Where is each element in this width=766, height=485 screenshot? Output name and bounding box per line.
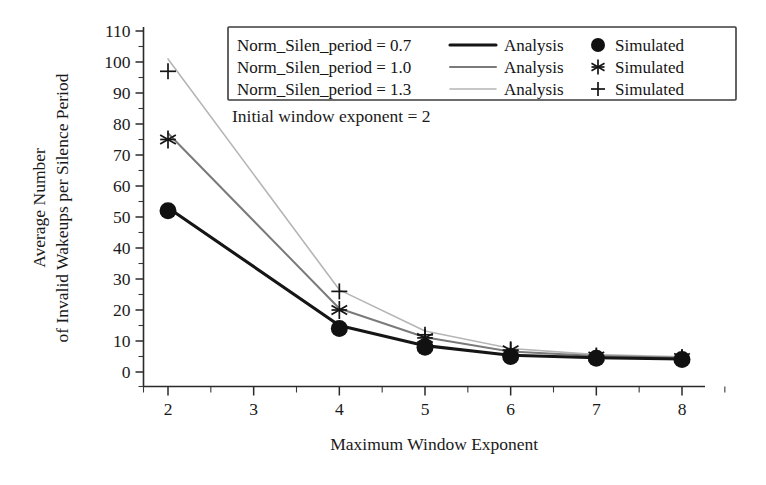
data-marker-asterisk: [160, 131, 176, 149]
x-axis-title: Maximum Window Exponent: [330, 434, 538, 454]
y-axis-ticks: [136, 31, 144, 387]
y-tick-label: 0: [122, 362, 131, 382]
chart-legend: Norm_Silen_period = 0.7AnalysisSimulated…: [228, 27, 736, 100]
line-chart-canvas: 0102030405060708090100110 2345678 Averag…: [0, 0, 766, 485]
y-axis-title-line2: of Invalid Wakeups per Silence Period: [52, 73, 72, 342]
chart-figure: 0102030405060708090100110 2345678 Averag…: [0, 0, 766, 485]
y-tick-label: 70: [113, 145, 131, 165]
series-line-3: [168, 59, 682, 357]
data-marker-circle: [331, 320, 348, 337]
data-marker-plus: [331, 283, 347, 299]
x-tick-label: 2: [164, 399, 173, 419]
x-axis-tick-labels: 2345678: [164, 399, 687, 419]
x-axis-ticks: [144, 387, 725, 396]
data-series-group: [168, 59, 682, 359]
legend-series-name: Norm_Silen_period = 0.7: [237, 36, 412, 55]
x-tick-label: 8: [678, 399, 687, 419]
y-tick-label: 110: [105, 21, 131, 41]
legend-series-name: Norm_Silen_period = 1.0: [237, 58, 411, 77]
data-marker-circle: [502, 348, 519, 365]
x-tick-label: 6: [506, 399, 515, 419]
y-tick-label: 50: [113, 207, 131, 227]
legend-marker-circle: [591, 38, 605, 52]
x-tick-label: 5: [421, 399, 430, 419]
data-marker-circle: [588, 350, 605, 367]
y-tick-label: 100: [104, 52, 131, 72]
legend-simulated-label: Simulated: [615, 36, 684, 55]
legend-simulated-label: Simulated: [615, 58, 684, 77]
x-tick-label: 3: [249, 399, 258, 419]
y-axis-tick-labels: 0102030405060708090100110: [104, 21, 131, 382]
legend-analysis-label: Analysis: [504, 36, 564, 55]
y-tick-label: 10: [113, 331, 131, 351]
y-tick-label: 20: [113, 300, 131, 320]
y-tick-label: 90: [113, 83, 131, 103]
y-tick-label: 30: [113, 269, 131, 289]
legend-series-name: Norm_Silen_period = 1.3: [237, 80, 411, 99]
initial-window-exponent-annotation: Initial window exponent = 2: [232, 106, 430, 126]
data-marker-circle: [674, 351, 691, 368]
y-axis-title-line1: Average Number: [29, 148, 49, 268]
legend-analysis-label: Analysis: [504, 58, 564, 77]
data-marker-circle: [160, 202, 177, 219]
series-line-2: [168, 133, 682, 357]
y-tick-label: 80: [113, 114, 131, 134]
data-marker-circle: [417, 339, 434, 356]
x-tick-label: 4: [335, 399, 344, 419]
legend-simulated-label: Simulated: [615, 80, 684, 99]
y-tick-label: 60: [113, 176, 131, 196]
x-tick-label: 7: [592, 399, 601, 419]
legend-analysis-label: Analysis: [504, 80, 564, 99]
y-tick-label: 40: [113, 238, 131, 258]
